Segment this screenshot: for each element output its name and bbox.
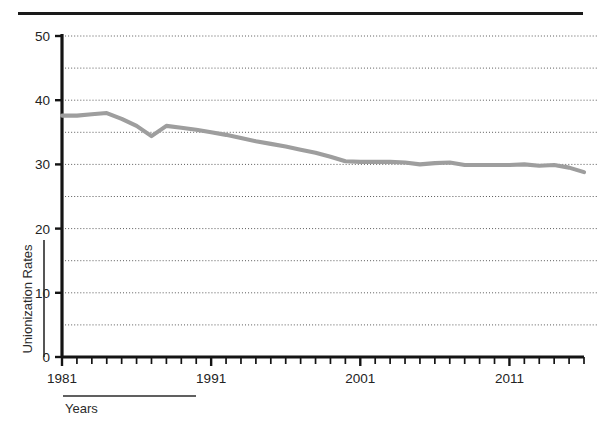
line-chart: 01020304050 1981199120012011 Unionizatio… — [0, 0, 601, 432]
y-axis-tick-label: 10 — [35, 286, 50, 301]
x-axis-tick-label: 1991 — [196, 371, 226, 386]
y-axis-tick-labels-group: 01020304050 — [35, 29, 50, 365]
y-axis-label: Unionization Rates — [20, 244, 35, 354]
series-line-unionization-rate — [62, 113, 584, 172]
x-axis-tick-labels-group: 1981199120012011 — [47, 371, 524, 386]
x-axis-tick-label: 2001 — [345, 371, 375, 386]
x-axis-tick-label: 2011 — [495, 371, 524, 386]
y-axis-tick-label: 50 — [35, 29, 50, 44]
y-axis-tick-label: 30 — [35, 157, 50, 172]
y-axis-tick-label: 40 — [35, 93, 50, 108]
x-axis-label: Years — [65, 401, 98, 416]
figure-canvas: 01020304050 1981199120012011 Unionizatio… — [0, 0, 601, 432]
gridlines-group — [62, 36, 597, 325]
x-axis-tick-label: 1981 — [47, 371, 77, 386]
y-axis-tick-label: 20 — [35, 222, 50, 237]
